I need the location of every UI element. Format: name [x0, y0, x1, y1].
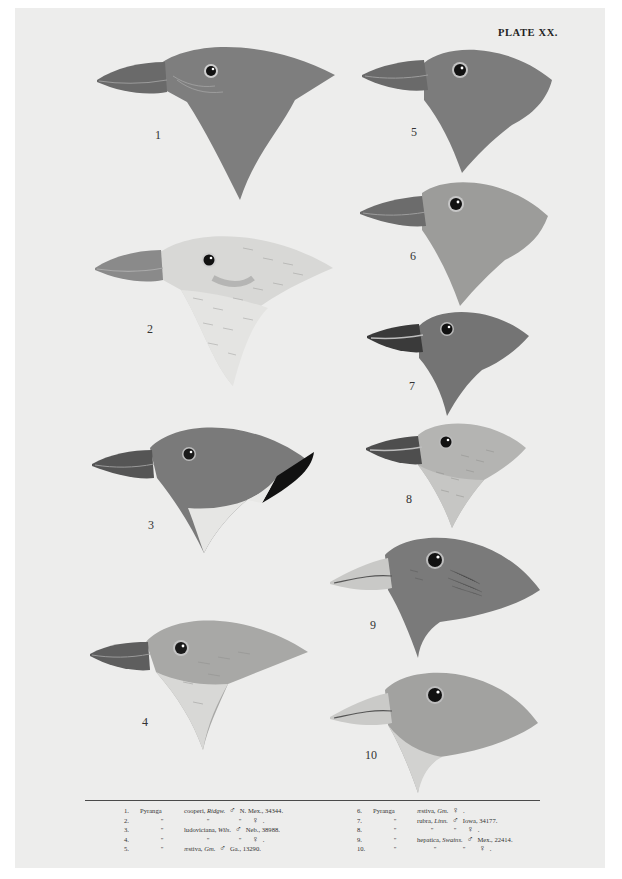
genus: ": [140, 825, 184, 835]
bird-head-figure-4: [88, 612, 313, 752]
genus: Pyranga: [373, 806, 417, 816]
caption-entry-7: 7. " rubra, Linn. ♂ Iowa, 34177.: [357, 816, 513, 826]
bird-head-figure-7: [367, 308, 532, 418]
locality: .: [463, 806, 465, 816]
species: ": [417, 825, 447, 835]
male-symbol-icon: ♂: [229, 806, 236, 816]
female-symbol-icon: ♀: [252, 816, 259, 826]
figure-number-10: 10: [365, 748, 377, 763]
female-symbol-icon: ♀: [252, 835, 259, 845]
entry-number: 7.: [357, 816, 373, 826]
figure-number-3: 3: [148, 518, 154, 533]
caption-entry-4: 4. " " " ♀ .: [124, 835, 283, 845]
author: Linn.: [434, 816, 448, 826]
entry-number: 3.: [124, 825, 140, 835]
caption-entry-5: 5. " æstiva, Gm. ♂ Ga., 13290.: [124, 844, 283, 854]
entry-number: 1.: [124, 806, 140, 816]
bird-head-figure-6: [360, 178, 550, 308]
author: Swains.: [442, 835, 462, 845]
bird-head-figure-3: [92, 418, 322, 558]
male-symbol-icon: ♂: [452, 816, 459, 826]
entry-number: 10.: [357, 844, 373, 854]
author: Gm.: [204, 844, 215, 854]
species: cooperi,: [184, 806, 205, 816]
genus: ": [140, 844, 184, 854]
species: ": [184, 816, 232, 826]
entry-number: 8.: [357, 825, 373, 835]
figure-number-2: 2: [147, 322, 153, 337]
caption-right: 6. Pyranga æstiva, Gm. ♀ . 7. " rubra, L…: [357, 806, 513, 854]
entry-number: 4.: [124, 835, 140, 845]
species: æstiva,: [417, 806, 436, 816]
bird-head-figure-9: [330, 530, 545, 660]
caption-divider: [85, 800, 540, 801]
figure-number-1: 1: [155, 128, 161, 143]
caption-left: 1. Pyranga cooperi, Ridgw. ♂ N. Mex., 34…: [124, 806, 283, 854]
species: rubra,: [417, 816, 433, 826]
entry-number: 5.: [124, 844, 140, 854]
caption-entry-8: 8. " " " ♀ .: [357, 825, 513, 835]
caption-entry-3: 3. " ludoviciana, Wils. ♂ Neb., 38988.: [124, 825, 283, 835]
author: Gm.: [437, 806, 448, 816]
caption-entry-10: 10. " " " ♀ .: [357, 844, 513, 854]
figure-number-4: 4: [142, 715, 148, 730]
bird-head-figure-5: [362, 45, 552, 175]
caption-entry-6: 6. Pyranga æstiva, Gm. ♀ .: [357, 806, 513, 816]
author: ": [447, 825, 463, 835]
author: Ridgw.: [207, 806, 225, 816]
genus: ": [373, 844, 417, 854]
author: Wils.: [218, 825, 231, 835]
genus: ": [373, 816, 417, 826]
species: æstiva,: [184, 844, 203, 854]
entry-number: 2.: [124, 816, 140, 826]
bird-head-figure-8: [366, 420, 531, 530]
locality: N. Mex., 34344.: [240, 806, 283, 816]
entry-number: 9.: [357, 835, 373, 845]
figure-number-6: 6: [410, 249, 416, 264]
species: ludoviciana,: [184, 825, 216, 835]
female-symbol-icon: ♀: [479, 844, 486, 854]
caption-entry-2: 2. " " " ♀ .: [124, 816, 283, 826]
caption-entry-1: 1. Pyranga cooperi, Ridgw. ♂ N. Mex., 34…: [124, 806, 283, 816]
male-symbol-icon: ♂: [219, 844, 226, 854]
male-symbol-icon: ♂: [467, 835, 474, 845]
figure-number-5: 5: [411, 125, 417, 140]
locality: .: [263, 816, 265, 826]
author: ": [453, 844, 475, 854]
caption-entry-9: 9. " hepatica, Swains. ♂ Mex., 22414.: [357, 835, 513, 845]
figure-number-7: 7: [409, 379, 415, 394]
genus: ": [140, 835, 184, 845]
locality: .: [478, 825, 480, 835]
bird-head-figure-10: [330, 665, 545, 795]
species: ": [417, 844, 453, 854]
entry-number: 6.: [357, 806, 373, 816]
author: ": [232, 835, 248, 845]
locality: Neb., 38988.: [246, 825, 280, 835]
male-symbol-icon: ♂: [235, 825, 242, 835]
bird-head-figure-1: [95, 40, 340, 205]
locality: .: [263, 835, 265, 845]
plate-title: PLATE XX.: [498, 27, 558, 38]
genus: ": [373, 825, 417, 835]
genus: ": [140, 816, 184, 826]
species: hepatica,: [417, 835, 441, 845]
locality: .: [490, 844, 492, 854]
bird-head-figure-2: [93, 228, 338, 388]
genus: Pyranga: [140, 806, 184, 816]
figure-number-9: 9: [370, 618, 376, 633]
locality: Ga., 13290.: [230, 844, 261, 854]
figure-number-8: 8: [406, 492, 412, 507]
genus: ": [373, 835, 417, 845]
